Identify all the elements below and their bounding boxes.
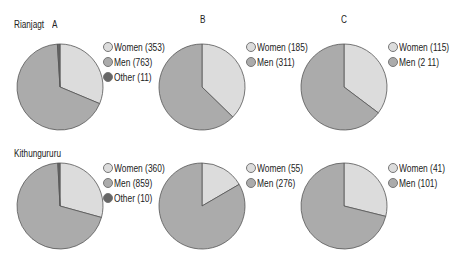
legend-label: Women (115) [399, 41, 449, 53]
pie-1 [17, 44, 103, 130]
pie-charts [0, 0, 458, 262]
legend-swatch-icon [246, 57, 256, 67]
legend-label: Women (41) [399, 162, 445, 174]
pie-3 [301, 44, 387, 130]
pie-2 [159, 44, 245, 130]
legend-swatch-icon [246, 178, 256, 188]
legend-label: Other (11) [114, 71, 152, 83]
legend-swatch-icon [246, 163, 256, 173]
legend-swatch-icon [103, 178, 113, 188]
legend-swatch-icon [103, 42, 113, 52]
legend-label: Men (859) [114, 177, 152, 189]
pie-5 [159, 163, 245, 249]
legend-swatch-icon [103, 72, 113, 82]
pie-4 [17, 163, 103, 249]
legend-label: Women (55) [257, 162, 303, 174]
legend-label: Women (185) [257, 41, 308, 53]
legend-label: Men (763) [114, 56, 152, 68]
legend-swatch-icon [103, 193, 113, 203]
legend-swatch-icon [388, 57, 398, 67]
legend-label: Men (101) [399, 177, 437, 189]
legend-swatch-icon [246, 42, 256, 52]
legend-swatch-icon [103, 163, 113, 173]
pie-6 [301, 163, 387, 249]
legend-label: Women (353) [114, 41, 165, 53]
legend-label: Men (276) [257, 177, 295, 189]
legend-label: Women (360) [114, 162, 165, 174]
legend-swatch-icon [388, 178, 398, 188]
legend-label: Other (10) [114, 192, 152, 204]
legend-label: Men (311) [257, 56, 295, 68]
legend-swatch-icon [103, 57, 113, 67]
legend-swatch-icon [388, 42, 398, 52]
legend-label: Men (2 11) [399, 56, 439, 68]
legend-swatch-icon [388, 163, 398, 173]
